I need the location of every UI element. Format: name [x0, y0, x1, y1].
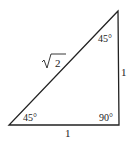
sqrt-radical-symbol	[42, 54, 66, 68]
angle-top-label: 45°	[98, 33, 112, 44]
horizontal-side-label: 1	[65, 127, 71, 139]
angle-bottom-left-label: 45°	[23, 112, 37, 123]
vertical-side-label: 1	[121, 66, 127, 78]
angle-bottom-right-label: 90°	[99, 112, 113, 123]
triangle-diagram: 2 45° 45° 90° 1 1	[0, 0, 132, 142]
right-triangle	[9, 11, 119, 125]
hypotenuse-radicand: 2	[55, 57, 61, 69]
